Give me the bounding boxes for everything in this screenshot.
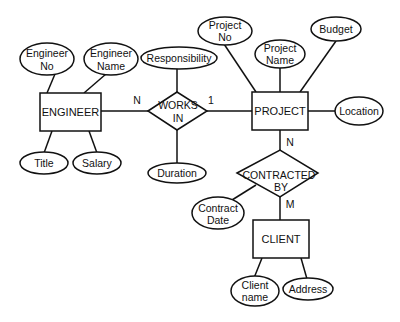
relationship-label-line2: BY xyxy=(274,181,288,193)
relationship-diamond xyxy=(148,92,207,130)
svg-text:Salary: Salary xyxy=(82,157,113,169)
svg-text:Address: Address xyxy=(289,283,328,295)
svg-text:Name: Name xyxy=(266,54,294,66)
cardinality-works-in-project: 1 xyxy=(208,94,214,106)
svg-text:No: No xyxy=(40,60,54,72)
attribute-engineer-name: Engineer Name xyxy=(84,43,138,75)
svg-text:Title: Title xyxy=(34,157,54,169)
connector-project-no xyxy=(224,44,256,92)
svg-text:Engineer: Engineer xyxy=(26,47,69,59)
attribute-location: Location xyxy=(335,97,383,125)
attribute-salary: Salary xyxy=(73,152,121,174)
svg-text:Project: Project xyxy=(264,42,297,54)
connector-engineer-no xyxy=(47,74,55,93)
attribute-duration: Duration xyxy=(148,163,206,183)
svg-text:Duration: Duration xyxy=(157,167,197,179)
connector-title xyxy=(44,131,52,153)
connector-contract-date xyxy=(232,185,256,200)
attribute-project-name: Project Name xyxy=(255,40,305,68)
attribute-title: Title xyxy=(20,152,68,174)
svg-text:Location: Location xyxy=(339,105,379,117)
svg-text:Project: Project xyxy=(209,19,242,31)
attribute-engineer-no: Engineer No xyxy=(20,43,74,75)
attribute-budget: Budget xyxy=(311,17,361,41)
entity-label: CLIENT xyxy=(261,233,300,245)
cardinality-contracted-by-client: M xyxy=(286,198,295,210)
attribute-address: Address xyxy=(283,278,333,300)
svg-text:No: No xyxy=(218,31,232,43)
svg-text:Date: Date xyxy=(207,214,229,226)
entity-project: PROJECT xyxy=(252,92,308,130)
entity-label: PROJECT xyxy=(254,105,306,117)
cardinality-engineer-works-in: N xyxy=(133,94,141,106)
attribute-client-name: Client name xyxy=(231,276,279,306)
connector-salary xyxy=(89,131,97,153)
connector-budget xyxy=(300,41,336,92)
svg-text:Budget: Budget xyxy=(319,23,352,35)
svg-text:Contract: Contract xyxy=(198,202,238,214)
entity-client: CLIENT xyxy=(253,220,309,258)
svg-text:Name: Name xyxy=(97,60,125,72)
entity-label: ENGINEER xyxy=(42,106,100,118)
connector-address xyxy=(301,258,307,279)
cardinality-project-contracted-by: N xyxy=(286,136,294,148)
attribute-responsibility: Responsibility xyxy=(141,47,217,69)
svg-text:Engineer: Engineer xyxy=(90,47,133,59)
attribute-contract-date: Contract Date xyxy=(192,197,244,229)
relationship-label-line2: IN xyxy=(173,112,184,124)
svg-text:Responsibility: Responsibility xyxy=(147,52,213,64)
attribute-project-no: Project No xyxy=(198,17,252,45)
connector-client-name xyxy=(254,258,262,278)
connector-engineer-name xyxy=(84,74,106,93)
relationship-label-line1: CONTRACTED xyxy=(243,169,316,181)
relationship-works-in: WORKS IN xyxy=(148,92,207,130)
er-diagram: ENGINEER PROJECT CLIENT WORKS IN N 1 CON… xyxy=(0,0,400,322)
relationship-label-line1: WORKS xyxy=(158,99,198,111)
entity-engineer: ENGINEER xyxy=(40,93,101,131)
svg-text:Client: Client xyxy=(242,279,269,291)
svg-text:name: name xyxy=(242,291,268,303)
